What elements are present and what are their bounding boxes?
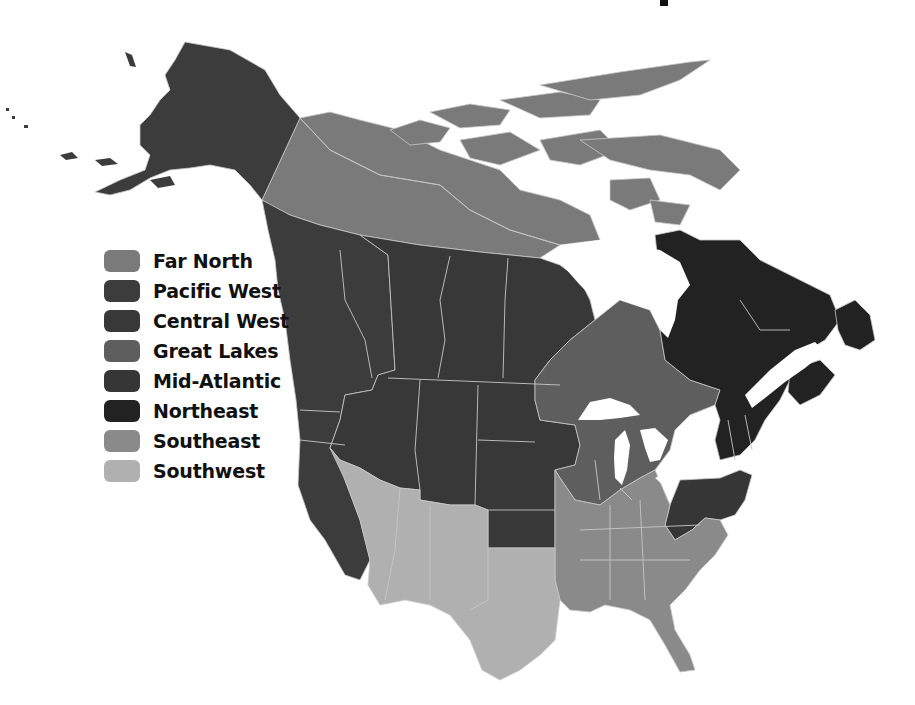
legend-item-mid-atlantic[interactable]: Mid-Atlantic: [104, 366, 289, 396]
legend-label-northeast: Northeast: [153, 400, 258, 422]
legend: Far North Pacific West Central West Grea…: [104, 246, 289, 486]
legend-label-far-north: Far North: [153, 250, 253, 272]
legend-swatch-central-west: [104, 310, 140, 332]
region-newfoundland[interactable]: [835, 300, 875, 350]
legend-swatch-mid-atlantic: [104, 370, 140, 392]
legend-label-southeast: Southeast: [153, 430, 260, 452]
legend-item-pacific-west[interactable]: Pacific West: [104, 276, 289, 306]
lake-ontario: [685, 445, 710, 457]
legend-item-southeast[interactable]: Southeast: [104, 426, 289, 456]
legend-swatch-southeast: [104, 430, 140, 452]
legend-label-mid-atlantic: Mid-Atlantic: [153, 370, 281, 392]
legend-swatch-pacific-west: [104, 280, 140, 302]
legend-swatch-southwest: [104, 460, 140, 482]
legend-label-central-west: Central West: [153, 310, 289, 332]
legend-label-pacific-west: Pacific West: [153, 280, 281, 302]
legend-item-far-north[interactable]: Far North: [104, 246, 289, 276]
legend-swatch-northeast: [104, 400, 140, 422]
legend-item-great-lakes[interactable]: Great Lakes: [104, 336, 289, 366]
legend-label-southwest: Southwest: [153, 460, 265, 482]
region-alaska[interactable]: [95, 42, 300, 200]
legend-item-southwest[interactable]: Southwest: [104, 456, 289, 486]
legend-label-great-lakes: Great Lakes: [153, 340, 278, 362]
legend-swatch-great-lakes: [104, 340, 140, 362]
legend-item-northeast[interactable]: Northeast: [104, 396, 289, 426]
legend-item-central-west[interactable]: Central West: [104, 306, 289, 336]
legend-swatch-far-north: [104, 250, 140, 272]
